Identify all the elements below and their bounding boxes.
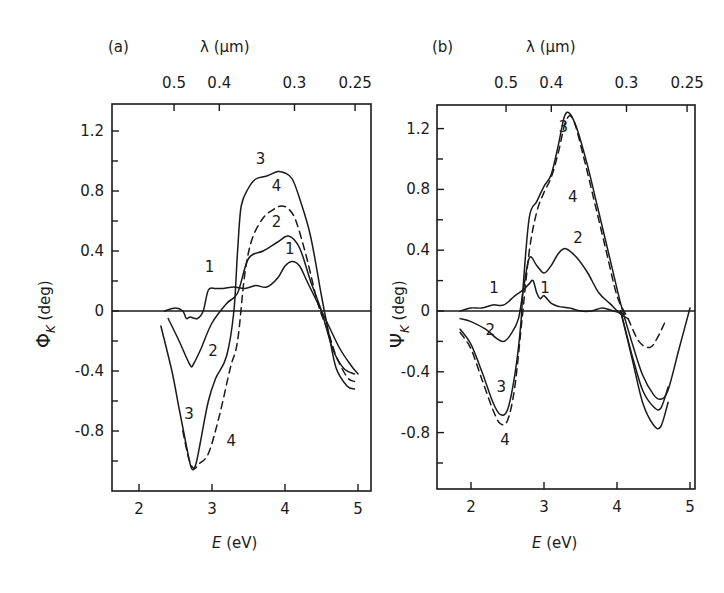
y-tick-label: 0.4 [80, 242, 104, 260]
panel-a-top-axis-title: λ (μm) [200, 38, 250, 56]
curve-1 [165, 262, 358, 375]
y-tick-label: -0.8 [75, 422, 104, 440]
curve-2 [168, 236, 354, 374]
panel-b-top-ticks: 0.50.40.30.25 [494, 74, 704, 112]
y-tick-label: -0.4 [75, 362, 104, 380]
curve-label: 3 [559, 118, 569, 136]
panel-a-curves [161, 171, 358, 469]
panel-a-label: (a) [108, 38, 129, 56]
curve-label: 4 [227, 432, 237, 450]
panel-b-x-axis-title: E (eV) [532, 534, 577, 552]
curve-label: 3 [497, 378, 507, 396]
y-tick-label: -0.4 [401, 363, 430, 381]
top-tick-label: 0.3 [615, 74, 639, 92]
y-tick-label: 0.4 [406, 241, 430, 259]
curve-label: 4 [272, 177, 282, 195]
top-tick-label: 0.3 [283, 74, 307, 92]
top-tick-label: 0.4 [207, 74, 231, 92]
top-tick-label: 0.25 [670, 74, 703, 92]
curve-label: 2 [573, 229, 583, 247]
x-tick-label: 2 [466, 498, 476, 516]
x-tick-label: 5 [685, 498, 695, 516]
curve-label: 3 [184, 405, 194, 423]
panel-a: 1.20.80.40-0.4-0.8 2345 0.50.40.30.25 12… [32, 38, 372, 552]
top-tick-label: 0.5 [162, 74, 186, 92]
curve-label: 2 [272, 213, 282, 231]
y-tick-label: 0 [420, 302, 430, 320]
y-tick-label: 1.2 [80, 122, 104, 140]
curve-label: 1 [285, 240, 295, 258]
x-tick-label: 5 [353, 500, 363, 518]
curve-3 [460, 112, 690, 415]
x-tick-label: 3 [207, 500, 217, 518]
curve-label: 2 [486, 321, 496, 339]
y-tick-label: 0 [94, 302, 104, 320]
panel-b: 1.20.80.40-0.4-0.8 2345 0.50.40.30.25 12… [386, 38, 704, 552]
top-tick-label: 0.25 [338, 74, 371, 92]
curve-label: 4 [568, 188, 578, 206]
curve-label: 3 [256, 150, 266, 168]
panel-b-frame [437, 105, 695, 489]
panel-a-x-ticks: 2345 [134, 484, 363, 518]
figure: 1.20.80.40-0.4-0.8 2345 0.50.40.30.25 12… [0, 0, 724, 593]
y-tick-label: -0.8 [401, 424, 430, 442]
x-tick-label: 2 [134, 500, 144, 518]
panel-a-top-ticks: 0.50.40.30.25 [162, 74, 372, 111]
panel-b-label: (b) [432, 38, 453, 56]
top-tick-label: 0.5 [494, 74, 518, 92]
curve-label: 4 [500, 431, 510, 449]
y-tick-label: 1.2 [406, 120, 430, 138]
curve-label: 1 [540, 279, 550, 297]
panel-a-curve-labels: 12343421 [184, 150, 294, 450]
x-tick-label: 4 [612, 498, 622, 516]
y-tick-label: 0.8 [406, 180, 430, 198]
x-tick-label: 3 [539, 498, 549, 516]
panel-b-top-axis-title: λ (μm) [526, 38, 576, 56]
curve-label: 1 [489, 279, 499, 297]
curve-label: 2 [208, 342, 218, 360]
y-tick-label: 0.8 [80, 182, 104, 200]
curve-4 [460, 116, 664, 425]
panel-b-y-axis-title: ΨK (deg) [386, 280, 412, 348]
x-tick-label: 4 [280, 500, 290, 518]
top-tick-label: 0.4 [539, 74, 563, 92]
curve-label: 1 [205, 258, 215, 276]
panel-a-x-axis-title: E (eV) [212, 534, 257, 552]
panel-a-y-axis-title: ΦK (deg) [32, 280, 58, 348]
svg-text:ΨK (deg): ΨK (deg) [386, 280, 412, 348]
svg-text:ΦK (deg): ΦK (deg) [32, 280, 58, 348]
panel-b-curves [460, 112, 690, 429]
panel-b-x-ticks: 2345 [466, 482, 695, 516]
